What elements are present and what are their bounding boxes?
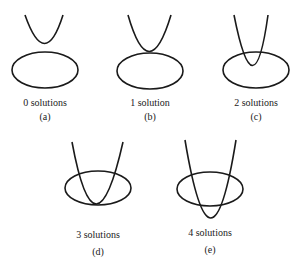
panel-d-letter: (d) <box>53 246 143 258</box>
panel-a-parabola <box>25 15 63 44</box>
panel-b-ellipse <box>117 53 183 89</box>
panel-e-ellipse <box>177 172 243 206</box>
panel-a-graphic <box>12 15 78 88</box>
panel-b-parabola <box>128 15 171 52</box>
panel-b-caption: 1 solution <box>105 97 195 109</box>
panel-e-graphic <box>177 140 243 218</box>
panel-e-letter: (e) <box>165 244 255 256</box>
panel-c-letter: (c) <box>211 111 301 123</box>
panel-a-letter: (a) <box>0 111 90 123</box>
panel-a-caption: 0 solutions <box>0 97 90 109</box>
panel-b-letter: (b) <box>105 111 195 123</box>
figure-canvas: 0 solutions (a) 1 solution (b) 2 solutio… <box>0 0 302 263</box>
intersection-diagram <box>0 0 302 263</box>
panel-d-ellipse <box>65 171 131 205</box>
panel-d-caption: 3 solutions <box>53 229 143 241</box>
panel-c-caption: 2 solutions <box>211 97 301 109</box>
panel-c-graphic <box>223 15 289 88</box>
panel-e-caption: 4 solutions <box>165 227 255 239</box>
panel-b-graphic <box>117 15 183 89</box>
panel-a-ellipse <box>12 52 78 88</box>
panel-d-graphic <box>65 142 131 205</box>
panel-c-parabola <box>234 15 268 66</box>
panel-c-ellipse <box>223 52 289 88</box>
